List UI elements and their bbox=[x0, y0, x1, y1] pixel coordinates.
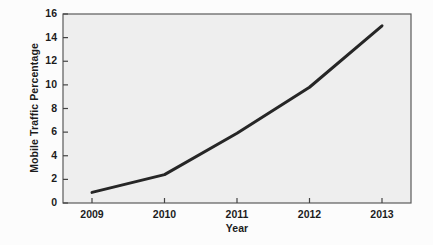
plot-background bbox=[63, 14, 411, 203]
x-axis-title: Year bbox=[63, 222, 411, 234]
chart-figure: 0246810121416 20092010201120122013 Mobil… bbox=[0, 0, 433, 245]
y-axis-title: Mobile Traffic Percentage bbox=[28, 8, 44, 208]
x-tick-label: 2010 bbox=[142, 208, 188, 220]
x-tick-label: 2013 bbox=[359, 208, 405, 220]
x-tick-label: 2011 bbox=[214, 208, 260, 220]
x-tick-label: 2012 bbox=[287, 208, 333, 220]
x-tick-label: 2009 bbox=[69, 208, 115, 220]
